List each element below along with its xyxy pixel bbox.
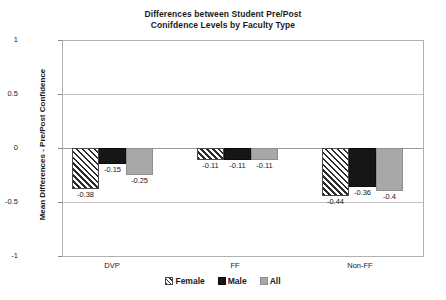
x-tick-label-dvp: DVP bbox=[73, 261, 151, 270]
bar-ff-female bbox=[197, 148, 224, 160]
bar-value-dvp-male: -0.15 bbox=[94, 166, 131, 174]
y-tick-label-0.5: 0.5 bbox=[0, 90, 18, 98]
bar-ff-male bbox=[224, 148, 251, 160]
x-tick-label-ff: FF bbox=[196, 261, 274, 270]
legend-swatch-female-icon bbox=[165, 277, 173, 285]
bar-value-ff-all: -0.11 bbox=[246, 162, 283, 170]
y-tick-label-neg1: -1 bbox=[0, 252, 18, 260]
plot-area: -0.38 -0.15 -0.25 -0.11 -0.11 -0.11 -0.4… bbox=[62, 40, 424, 257]
bar-value-nonff-all: -0.4 bbox=[371, 193, 408, 201]
chart-legend: Female Male All bbox=[0, 276, 446, 286]
legend-label-all: All bbox=[270, 276, 281, 286]
chart-title: Differences between Student Pre/Post Con… bbox=[0, 9, 446, 31]
chart-screenshot: { "chart_data": { "type": "bar", "title"… bbox=[0, 0, 446, 300]
legend-item-male: Male bbox=[218, 276, 247, 286]
legend-item-female: Female bbox=[165, 276, 204, 286]
bar-dvp-male bbox=[99, 148, 126, 164]
y-tick-label-1: 1 bbox=[0, 36, 18, 44]
gridline-neg0.5 bbox=[63, 202, 423, 203]
bar-ff-all bbox=[251, 148, 278, 160]
y-tick-label-0: 0 bbox=[0, 144, 18, 152]
legend-label-female: Female bbox=[175, 276, 204, 286]
chart-title-line-2: Conifdence Levels by Faculty Type bbox=[0, 20, 446, 31]
bar-nonff-all bbox=[376, 148, 403, 191]
x-tick-label-nonff: Non-FF bbox=[321, 261, 399, 270]
chart-title-line-1: Differences between Student Pre/Post bbox=[0, 9, 446, 20]
y-tick-label-neg0.5: -0.5 bbox=[0, 198, 18, 206]
gridline-0.5 bbox=[63, 94, 423, 95]
legend-swatch-male-icon bbox=[218, 277, 226, 285]
bar-nonff-male bbox=[349, 148, 376, 187]
y-axis-title: Mean Differences - Pre/Post Confidence bbox=[38, 30, 47, 260]
legend-swatch-all-icon bbox=[260, 277, 268, 285]
bar-value-dvp-female: -0.38 bbox=[67, 191, 104, 199]
legend-label-male: Male bbox=[228, 276, 247, 286]
legend-item-all: All bbox=[260, 276, 281, 286]
bar-value-nonff-female: -0.44 bbox=[317, 198, 354, 206]
bar-value-dvp-all: -0.25 bbox=[121, 177, 158, 185]
